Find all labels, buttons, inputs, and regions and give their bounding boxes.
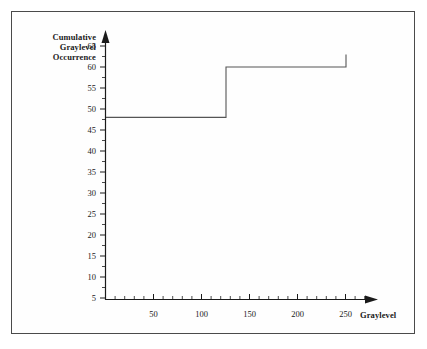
y-axis-title-line-3: Occurrence xyxy=(24,52,96,62)
y-tick-label-25: 25 xyxy=(76,209,96,219)
y-tick-label-65: 65 xyxy=(76,41,96,51)
x-axis xyxy=(106,296,379,304)
figure-container: Cumulative Graylevel Occurrence Grayleve… xyxy=(0,0,427,349)
y-tick-label-10: 10 xyxy=(76,272,96,282)
y-tick-label-55: 55 xyxy=(76,83,96,93)
y-tick-label-5: 5 xyxy=(76,293,96,303)
x-tick-label-50: 50 xyxy=(139,309,169,319)
y-tick-label-20: 20 xyxy=(76,230,96,240)
x-tick-label-100: 100 xyxy=(187,309,217,319)
x-tick-label-250: 250 xyxy=(331,309,361,319)
y-tick-label-45: 45 xyxy=(76,125,96,135)
y-tick-label-40: 40 xyxy=(76,146,96,156)
y-tick-label-60: 60 xyxy=(76,62,96,72)
y-tick-label-35: 35 xyxy=(76,167,96,177)
cumulative-step-curve xyxy=(106,54,346,117)
y-tick-label-30: 30 xyxy=(76,188,96,198)
y-tick-label-50: 50 xyxy=(76,104,96,114)
x-tick-label-150: 150 xyxy=(235,309,265,319)
x-tick-label-200: 200 xyxy=(283,309,313,319)
x-axis-title: Graylevel xyxy=(360,310,396,320)
y-axis xyxy=(102,30,110,300)
y-tick-label-15: 15 xyxy=(76,251,96,261)
